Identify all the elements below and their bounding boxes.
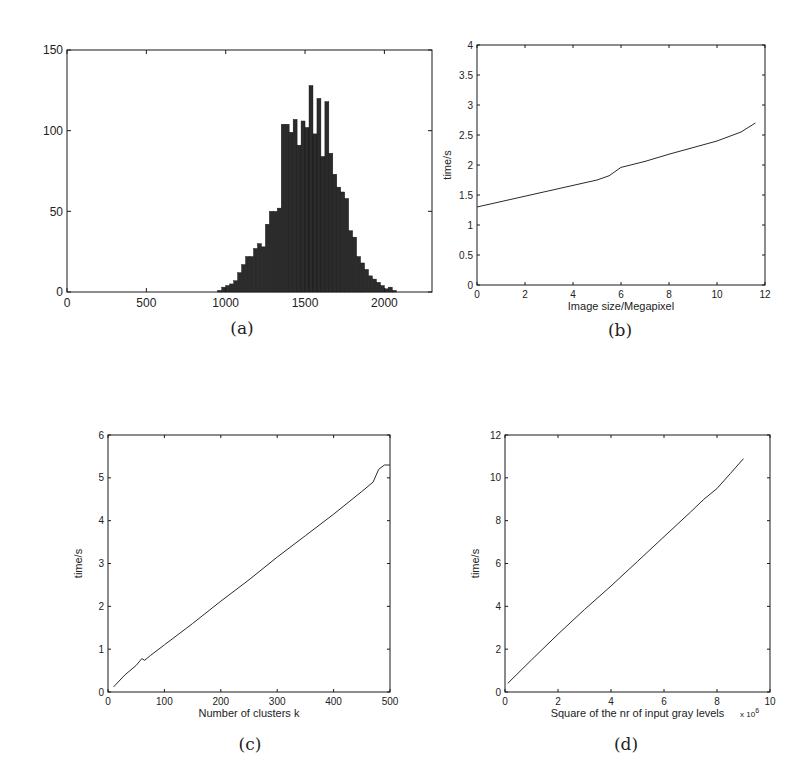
y-tick-label: 2 [467,160,473,171]
histogram-bar [388,287,392,292]
histogram-bar [337,187,341,292]
x-tick-label: 12 [759,289,771,300]
y-tick-label: 0 [495,687,501,698]
x-axis-multiplier: x 106 [740,707,759,719]
y-tick-label: 4 [495,601,501,612]
chart-c-clusters-time: 01002003004005000123456Number of cluster… [60,390,440,730]
axes: 02468101200.511.522.533.54Image size/Meg… [441,40,771,313]
histogram-bar [345,198,349,292]
histogram-bar [317,98,321,292]
histogram-bar [361,263,365,292]
x-tick-label: 1000 [212,296,239,310]
caption-c: (c) [220,734,280,754]
histogram-bar [253,248,257,292]
y-tick-label: 0.5 [459,250,473,261]
y-tick-label: 3 [467,100,473,111]
histogram-bar [392,290,396,292]
y-tick-label: 5 [98,472,104,483]
x-tick-label: 2 [555,696,561,707]
y-tick-label: 12 [490,430,502,441]
histogram-bar [301,121,305,292]
histogram-bar [265,224,269,292]
line-plot-c: 01002003004005000123456Number of cluster… [60,390,440,720]
y-axis-label: time/s [441,150,453,180]
x-tick-label: 400 [325,696,342,707]
x-tick-label: 0 [105,696,111,707]
histogram-bar [257,244,261,292]
y-tick-label: 6 [495,558,501,569]
y-tick-label: 1 [467,220,473,231]
histogram-bar [222,287,226,292]
line-plot-d: 0246810024681012Square of the nr of inpu… [440,390,796,720]
y-tick-label: 2 [98,601,104,612]
caption-b: (b) [590,320,650,340]
y-tick-label: 0 [98,687,104,698]
histogram-bar [313,134,317,292]
y-tick-label: 100 [43,124,63,138]
histogram-bar [349,231,353,292]
data-series-line [477,123,755,207]
histogram-bar [281,124,285,292]
x-tick-label: 0 [64,296,71,310]
y-axis-label: time/s [469,548,481,578]
y-tick-label: 1.5 [459,190,473,201]
plot-frame [67,50,432,292]
histogram-bar [226,286,230,292]
line-plot-b: 02468101200.511.522.533.54Image size/Meg… [420,0,796,330]
histogram-bar [261,247,265,292]
x-tick-label: 2000 [371,296,398,310]
data-series-line [508,459,744,684]
histogram-bar [369,276,373,292]
x-tick-label: 6 [661,696,667,707]
histogram-bar [234,281,238,292]
plot-frame [108,435,390,692]
y-tick-label: 2.5 [459,130,473,141]
x-tick-label: 10 [764,696,776,707]
caption-d: (d) [596,734,656,754]
histogram-bar [309,85,313,292]
caption-a: (a) [212,318,272,338]
x-axis-label: Number of clusters k [199,707,300,719]
histogram-bar [269,211,273,292]
histogram-bar [285,124,289,292]
histogram-bar [376,282,380,292]
histogram-bar [242,265,246,292]
y-tick-label: 6 [98,430,104,441]
x-tick-label: 300 [269,696,286,707]
histogram-bar [329,153,333,292]
x-tick-label: 2 [522,289,528,300]
axes: 0500100015002000050100150 [43,43,432,310]
histogram-bar [277,208,281,292]
histogram-bars [218,85,397,292]
y-tick-label: 0 [467,280,473,291]
x-tick-label: 4 [608,696,614,707]
histogram-bar [218,290,222,292]
histogram-bar [321,156,325,292]
histogram-bar [341,192,345,292]
histogram-bar [365,269,369,292]
histogram-bar [250,257,254,292]
histogram-bar [333,174,337,292]
histogram-bar [273,211,277,292]
chart-d-graylevels-time: 0246810024681012Square of the nr of inpu… [440,390,796,730]
y-tick-label: 150 [43,43,63,57]
histogram-bar [353,237,357,292]
histogram-bar [384,289,388,292]
data-series-line [114,465,390,687]
histogram-bar [372,279,376,292]
axes: 01002003004005000123456Number of cluster… [72,430,399,720]
x-tick-label: 10 [711,289,723,300]
x-tick-label: 8 [714,696,720,707]
x-tick-label: 200 [212,696,229,707]
y-axis-label: time/s [72,548,84,578]
x-tick-label: 500 [136,296,156,310]
x-tick-label: 1500 [292,296,319,310]
histogram-bar [293,119,297,292]
x-tick-label: 4 [570,289,576,300]
x-axis-label: Image size/Megapixel [568,300,674,312]
histogram-bar [325,102,329,292]
y-tick-label: 4 [467,40,473,51]
histogram-bar [297,145,301,292]
x-tick-label: 8 [666,289,672,300]
y-tick-label: 1 [98,644,104,655]
